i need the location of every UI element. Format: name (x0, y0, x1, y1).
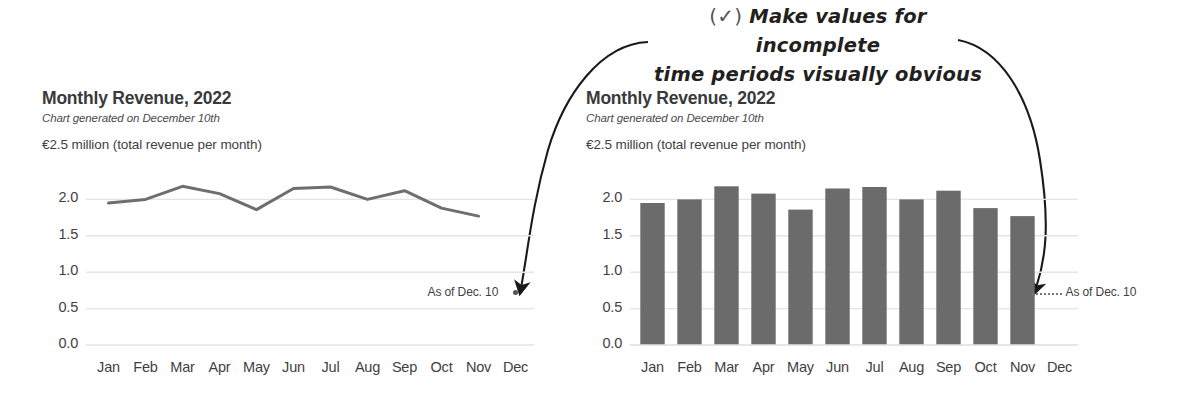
bar-chart-asof-dotted-line (1032, 293, 1062, 295)
bar-chart-bar (825, 189, 849, 346)
bar-chart-y-tick-label: 2.0 (586, 189, 622, 205)
bar-chart-x-tick-label: Apr (753, 359, 775, 375)
bar-chart-x-tick-label: Feb (677, 359, 701, 375)
line-chart-title: Monthly Revenue, 2022 (42, 88, 542, 109)
bar-chart-y-tick-label: 0.5 (586, 299, 622, 315)
bar-chart-svg (586, 159, 1086, 359)
bar-chart-x-tick-label: Nov (1010, 359, 1035, 375)
line-chart-x-tick-label: Apr (209, 359, 231, 375)
bar-chart-bar (788, 210, 812, 345)
line-chart-axis-note: €2.5 million (total revenue per month) (42, 137, 542, 153)
line-chart-asof-label: As of Dec. 10 (428, 285, 499, 299)
line-chart-x-tick-label: Jul (322, 359, 340, 375)
bar-chart-y-tick-label: 0.0 (586, 335, 622, 351)
bar-chart-subtitle: Chart generated on December 10th (586, 111, 1086, 125)
bar-chart-bar (862, 187, 886, 345)
line-chart-x-tick-label: Oct (431, 359, 453, 375)
line-chart-x-tick-label: Aug (355, 359, 380, 375)
bar-chart-bar (936, 191, 960, 345)
line-chart-y-tick-label: 1.0 (42, 262, 78, 278)
check-mark-icon: (✓) (709, 4, 742, 28)
bar-chart-x-tick-label: Aug (899, 359, 924, 375)
line-chart-y-tick-label: 0.5 (42, 299, 78, 315)
line-chart-x-tick-label: May (243, 359, 270, 375)
bar-chart-bar (677, 199, 701, 345)
annotation-callout: (✓) Make values for incomplete time peri… (648, 2, 988, 89)
line-chart-panel: Monthly Revenue, 2022 Chart generated on… (42, 88, 542, 359)
line-chart-x-tick-label: Nov (466, 359, 491, 375)
bar-chart-bar (899, 199, 923, 345)
bar-chart-x-tick-label: Dec (1047, 359, 1072, 375)
bar-chart-bar (973, 208, 997, 345)
line-chart-x-tick-label: Mar (170, 359, 194, 375)
line-chart-x-tick-label: Feb (133, 359, 157, 375)
bar-chart-y-tick-label: 1.0 (586, 262, 622, 278)
line-chart-subtitle: Chart generated on December 10th (42, 111, 542, 125)
bar-chart-x-tick-label: May (787, 359, 814, 375)
line-chart-x-axis: JanFebMarAprMayJunJulAugSepOctNovDec (42, 359, 542, 385)
line-chart-plot-area: JanFebMarAprMayJunJulAugSepOctNovDec As … (42, 159, 542, 359)
bar-chart-title: Monthly Revenue, 2022 (586, 88, 1086, 109)
line-chart-svg (42, 159, 542, 359)
bar-chart-bar (1010, 216, 1034, 345)
bar-chart-bar (751, 194, 775, 345)
line-chart-y-tick-label: 1.5 (42, 226, 78, 242)
bar-chart-bar (640, 203, 664, 345)
bar-chart-bar (714, 186, 738, 345)
line-chart-y-tick-label: 2.0 (42, 189, 78, 205)
line-chart-series (109, 186, 479, 216)
annotation-line-1: Make values for incomplete (749, 5, 926, 57)
bar-chart-x-axis: JanFebMarAprMayJunJulAugSepOctNovDec (586, 359, 1086, 385)
bar-chart-x-tick-label: Jul (866, 359, 884, 375)
line-chart-x-tick-label: Jun (282, 359, 305, 375)
bar-chart-y-tick-label: 1.5 (586, 226, 622, 242)
bar-chart-x-tick-label: Jun (826, 359, 849, 375)
bar-chart-x-tick-label: Jan (641, 359, 664, 375)
bar-chart-x-tick-label: Mar (714, 359, 738, 375)
line-chart-y-tick-label: 0.0 (42, 335, 78, 351)
bar-chart-plot-area: JanFebMarAprMayJunJulAugSepOctNovDec As … (586, 159, 1086, 359)
line-chart-x-tick-label: Sep (392, 359, 417, 375)
line-chart-x-tick-label: Jan (97, 359, 120, 375)
bar-chart-asof-label: As of Dec. 10 (1066, 285, 1137, 299)
bar-chart-x-tick-label: Sep (936, 359, 961, 375)
bar-chart-axis-note: €2.5 million (total revenue per month) (586, 137, 1086, 153)
bar-chart-panel: Monthly Revenue, 2022 Chart generated on… (586, 88, 1086, 359)
line-chart-x-tick-label: Dec (503, 359, 528, 375)
bar-chart-x-tick-label: Oct (975, 359, 997, 375)
annotation-line-2: time periods visually obvious (654, 63, 982, 86)
